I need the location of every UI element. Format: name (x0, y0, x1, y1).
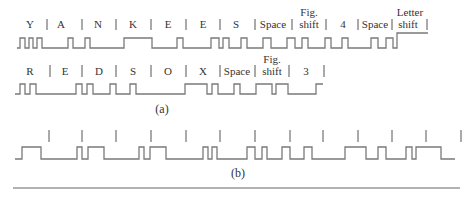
character-label: N (94, 18, 102, 30)
character-label: Y (26, 18, 34, 30)
character-label: K (129, 18, 137, 30)
row2-waveform (15, 84, 323, 94)
character-label: Space (260, 18, 286, 30)
character-label: Letter (397, 6, 424, 18)
character-label: E (165, 18, 172, 30)
character-label: shift (398, 18, 418, 30)
character-label: 4 (340, 18, 346, 30)
row1-character-labels: YANKEESSpaceFig.shift4SpaceLettershift (26, 6, 423, 30)
caption-a: (a) (155, 102, 168, 116)
part-b-tick-marks (49, 130, 461, 142)
baudot-code-figure: YANKEESSpaceFig.shift4SpaceLettershift R… (0, 0, 475, 197)
part-b-waveform (15, 147, 455, 159)
character-label: E (200, 18, 207, 30)
character-label: D (95, 65, 103, 77)
character-label: E (62, 65, 69, 77)
character-label: Space (362, 18, 388, 30)
character-label: shift (262, 65, 282, 77)
character-label: 3 (303, 65, 309, 77)
character-label: A (57, 18, 65, 30)
character-label: Fig. (263, 53, 281, 65)
character-label: Fig. (300, 6, 318, 18)
row1-waveform (17, 33, 428, 48)
character-label: shift (299, 18, 319, 30)
character-label: X (199, 65, 207, 77)
row2-character-dividers (50, 65, 324, 77)
caption-b: (b) (231, 166, 245, 180)
character-label: S (233, 18, 239, 30)
row2-character-labels: REDSOXSpaceFig.shift3 (26, 53, 309, 77)
character-label: R (26, 65, 34, 77)
character-label: S (130, 65, 136, 77)
character-label: Space (224, 65, 250, 77)
character-label: O (164, 65, 172, 77)
